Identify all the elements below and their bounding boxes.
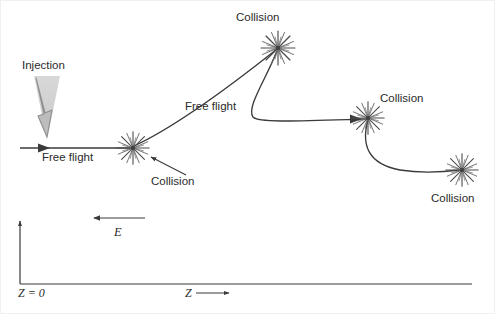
z-axis-label: Z <box>185 287 192 299</box>
free-flight-label-2: Free flight <box>185 101 236 113</box>
trajectory-diagram: Injection Free flight Collision Free fli… <box>0 0 496 315</box>
collision-star-3 <box>352 102 384 134</box>
collision-label-3: Collision <box>380 93 423 105</box>
collision-label-4: Collision <box>431 193 474 205</box>
collision-star-2 <box>261 31 295 65</box>
collision-label-1: Collision <box>151 176 194 188</box>
collision-star-1 <box>117 132 149 164</box>
free-flight-segment-3 <box>252 51 366 123</box>
injection-label: Injection <box>22 60 65 72</box>
free-flight-segment-4 <box>366 120 461 172</box>
field-label-E: E <box>114 226 122 239</box>
collision-star-4 <box>446 154 478 186</box>
z-origin-label: Z = 0 <box>18 287 45 299</box>
collision-label-2: Collision <box>236 12 279 24</box>
collision-1-leader-line <box>151 157 186 175</box>
free-flight-label-1: Free flight <box>42 152 93 164</box>
